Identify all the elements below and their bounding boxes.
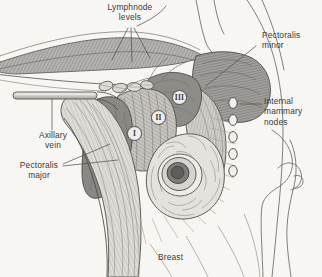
tumour-core bbox=[171, 166, 184, 178]
internal-mammary-node bbox=[229, 132, 237, 143]
internal-mammary-node bbox=[229, 166, 237, 177]
internal-mammary-node bbox=[229, 149, 237, 160]
internal-mammary-node bbox=[229, 115, 237, 126]
internal-mammary-node bbox=[229, 98, 237, 109]
anatomy-illustration bbox=[0, 0, 322, 277]
level-marker-i: I bbox=[127, 126, 142, 141]
level-marker-iii: III bbox=[172, 90, 187, 105]
anatomical-figure: Lymphnode levels Pectoralis minor Intern… bbox=[0, 0, 322, 277]
level-marker-ii: II bbox=[151, 110, 166, 125]
